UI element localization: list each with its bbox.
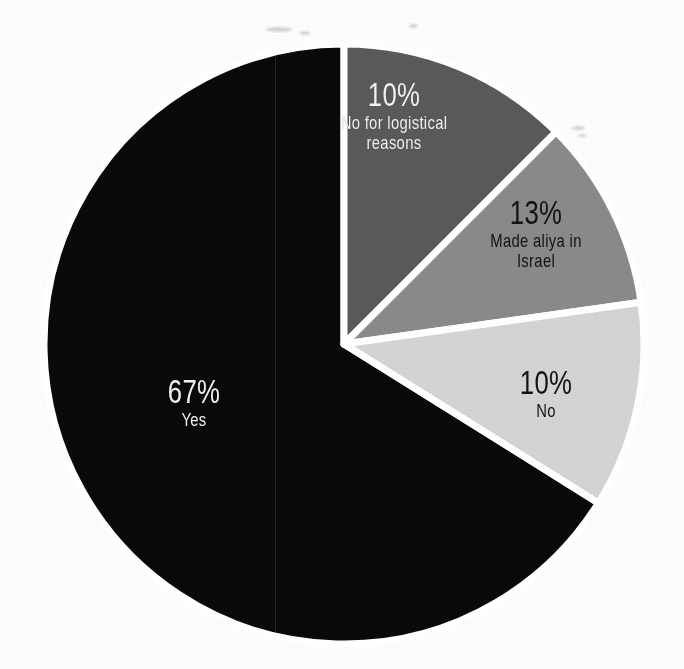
pie-chart-page: 10% No for logistical reasons 13% Made a… [0,0,684,669]
slice-category-no-logistical-line2: reasons [318,133,471,153]
slice-category-made-aliya-line1: Made aliya in [470,231,601,251]
scan-smudge-top-center [300,31,310,35]
slice-category-made-aliya-line2: Israel [470,251,601,271]
slice-label-no-logistical: 10% No for logistical reasons [318,78,471,153]
slice-label-no: 10% No [499,366,593,421]
slice-percent-yes: 67% [136,375,251,409]
slice-category-no-logistical-line1: No for logistical [318,113,471,133]
slice-percent-no: 10% [499,366,593,400]
scan-smudge-top-right [409,24,418,28]
slice-label-yes: 67% Yes [136,375,251,430]
slice-label-made-aliya: 13% Made aliya in Israel [470,196,601,271]
scan-smudge-mid-right [572,126,585,130]
slice-percent-no-logistical: 10% [318,78,471,112]
slice-percent-made-aliya: 13% [470,196,601,230]
scan-smudge-top-left [266,27,292,32]
slice-category-no-line1: No [499,401,593,421]
scan-smudge-upper-right [578,134,586,137]
scan-fold-line [275,56,276,632]
slice-category-yes: Yes [136,410,251,430]
